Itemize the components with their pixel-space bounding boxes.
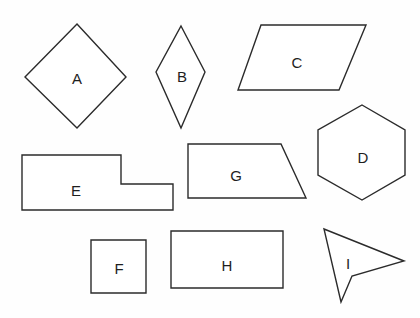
shape-label-h: H xyxy=(222,258,233,273)
shape-label-i: I xyxy=(346,256,350,271)
shape-label-d: D xyxy=(358,150,369,165)
shapes-worksheet: A B C D E F G H I xyxy=(0,0,420,318)
shape-label-a: A xyxy=(72,71,82,86)
shape-outline-e[interactable] xyxy=(22,155,173,210)
shape-label-f: F xyxy=(114,261,123,276)
shape-label-e: E xyxy=(71,183,81,198)
shape-outline-i[interactable] xyxy=(324,229,404,302)
shape-label-b: B xyxy=(177,69,187,84)
shape-label-g: G xyxy=(230,168,242,183)
shape-outline-g[interactable] xyxy=(188,144,306,198)
shape-label-c: C xyxy=(292,55,303,70)
